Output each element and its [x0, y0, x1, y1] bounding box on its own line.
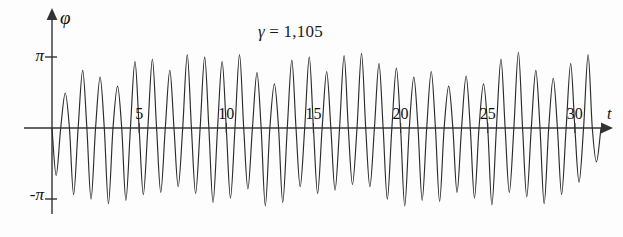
- x-axis-arrow-icon: [601, 123, 613, 134]
- chart-title: γ = 1,105: [258, 22, 323, 42]
- x-tick-label-30: 30: [562, 106, 588, 122]
- y-tick-label-neg-pi: -π: [8, 186, 44, 203]
- y-axis-label: φ: [60, 8, 71, 27]
- waveform-group: [52, 52, 601, 206]
- x-tick-label-25: 25: [475, 106, 501, 122]
- gamma-symbol: γ: [258, 22, 265, 41]
- y-tick-label-pi: π: [18, 47, 44, 64]
- x-tick-label-15: 15: [300, 106, 326, 122]
- phi-waveform-line: [52, 52, 601, 206]
- x-tick-label-10: 10: [213, 106, 239, 122]
- y-axis-arrow-icon: [47, 8, 58, 20]
- x-tick-label-20: 20: [388, 106, 414, 122]
- x-axis-label: t: [607, 106, 611, 122]
- gamma-value: = 1,105: [265, 22, 323, 41]
- chart-figure: γ = 1,105 φ t π -π 51015202530: [0, 0, 623, 237]
- x-tick-label-5: 5: [126, 106, 152, 122]
